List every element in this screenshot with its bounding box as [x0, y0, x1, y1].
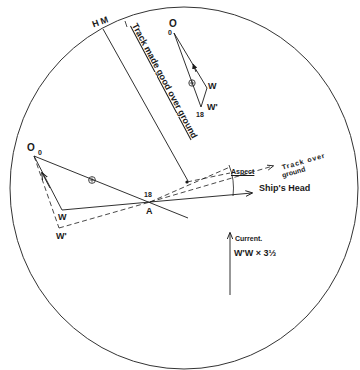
main-origin-time: 0 — [38, 149, 42, 156]
track-tick — [125, 21, 127, 27]
current-formula: W'W × 3⅓ — [234, 249, 276, 258]
current-label: Current. — [235, 235, 262, 242]
top-w-prime-label: W' — [207, 103, 218, 112]
aspect-label: Aspect — [231, 168, 254, 175]
main-w-prime-label: W' — [56, 232, 67, 241]
main-relative-plot — [34, 156, 273, 228]
top-time-end: 18 — [196, 111, 204, 118]
point-a-label: A — [146, 207, 153, 216]
main-w-label: W — [58, 213, 67, 222]
top-w-label: W — [208, 82, 217, 91]
top-origin-time: 0 — [168, 29, 172, 36]
ships-head-label: Ship's Head — [259, 184, 310, 193]
main-time-end: 18 — [144, 191, 152, 198]
main-origin-label: O — [27, 143, 35, 153]
top-origin-label: O — [169, 19, 177, 29]
